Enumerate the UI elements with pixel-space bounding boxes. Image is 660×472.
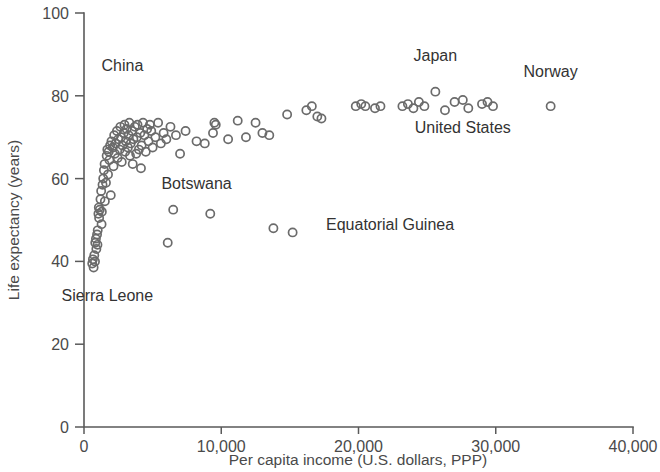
- data-point: [192, 137, 200, 145]
- chart-canvas: 010,00020,00030,00040,000 020406080100 C…: [0, 0, 660, 472]
- x-tick-label: 0: [80, 438, 89, 455]
- data-point: [289, 228, 297, 236]
- data-point: [107, 191, 115, 199]
- y-tick-label: 60: [51, 171, 69, 188]
- x-tick-label: 40,000: [609, 438, 658, 455]
- y-axis-ticks: 020406080100: [42, 5, 84, 436]
- data-point: [283, 110, 291, 118]
- data-points: [88, 88, 555, 272]
- y-tick-label: 40: [51, 253, 69, 270]
- data-point: [149, 143, 157, 151]
- data-point: [234, 117, 242, 125]
- annotation-label: China: [102, 57, 144, 74]
- data-point: [169, 206, 177, 214]
- annotation-label: Botswana: [161, 175, 231, 192]
- data-point: [431, 88, 439, 96]
- data-point: [441, 106, 449, 114]
- annotation-label: Japan: [414, 47, 458, 64]
- annotation-label: Sierra Leone: [62, 287, 154, 304]
- data-point: [242, 133, 250, 141]
- data-point: [209, 129, 217, 137]
- data-point: [450, 98, 458, 106]
- point-annotations: ChinaSierra LeoneBotswanaEquatorial Guin…: [62, 47, 578, 304]
- y-axis-title: Life expectancy (years): [5, 140, 22, 300]
- scatter-chart: 010,00020,00030,00040,000 020406080100 C…: [0, 0, 660, 472]
- y-tick-label: 100: [42, 5, 69, 22]
- data-point: [164, 239, 172, 247]
- data-point: [176, 150, 184, 158]
- y-tick-label: 80: [51, 88, 69, 105]
- data-point: [201, 139, 209, 147]
- data-point: [172, 131, 180, 139]
- data-point: [109, 162, 117, 170]
- y-tick-label: 20: [51, 336, 69, 353]
- data-point: [269, 224, 277, 232]
- data-point: [251, 119, 259, 127]
- data-point: [459, 96, 467, 104]
- annotation-label: Equatorial Guinea: [326, 216, 454, 233]
- data-point: [154, 119, 162, 127]
- data-point: [129, 160, 137, 168]
- annotation-label: Norway: [524, 63, 578, 80]
- data-point: [181, 127, 189, 135]
- annotation-label: United States: [415, 119, 511, 136]
- data-point: [224, 135, 232, 143]
- data-point: [137, 164, 145, 172]
- data-point: [464, 104, 472, 112]
- x-axis-title: Per capita income (U.S. dollars, PPP): [229, 451, 487, 468]
- data-point: [166, 123, 174, 131]
- data-point: [547, 102, 555, 110]
- y-tick-label: 0: [60, 419, 69, 436]
- data-point: [206, 210, 214, 218]
